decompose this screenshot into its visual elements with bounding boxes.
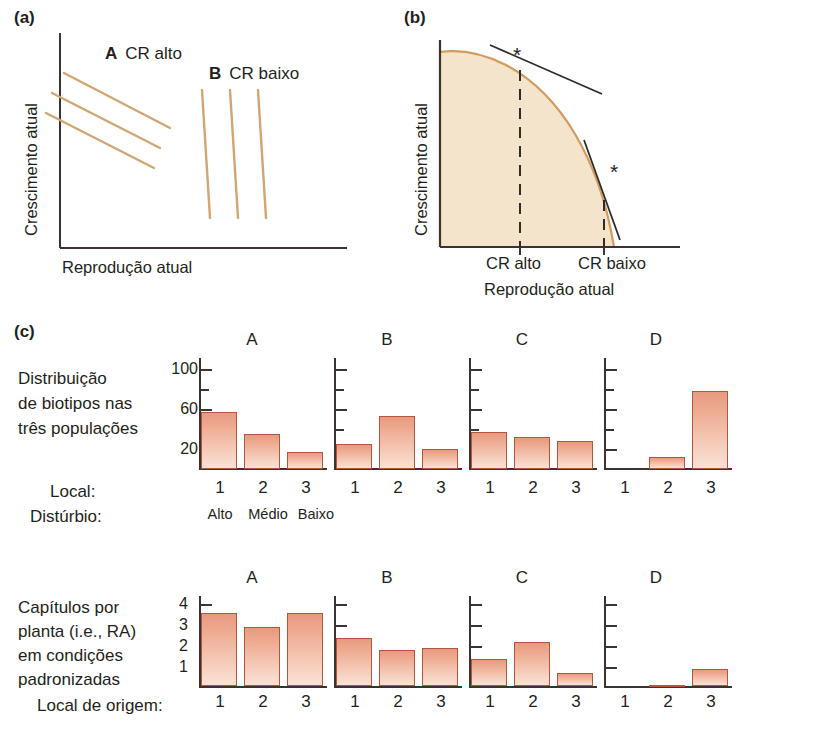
row2-chart-b-cat-3: 3 [431,692,451,712]
row2-chart-title-d: D [641,568,671,588]
panel-b-asterisk-1: * [513,48,521,62]
row2-chart-b-ytick-3 [336,625,347,627]
row2-ytick-4: 4 [166,595,188,613]
row1-chart-c-bar-3 [557,441,593,469]
row2-ytick-3: 3 [166,616,188,634]
row1-chart-b-cat-1: 1 [345,478,365,498]
row1-chart-d-ytick-40 [606,429,614,431]
row1-chart-a-ytick-100 [201,369,212,371]
panel-b-letter: (b) [404,8,426,28]
row1-chart-a-bar-3 [287,452,323,469]
row1-local-label: Local: [50,480,95,503]
row2-chart-d-cat-3: 3 [701,692,721,712]
row1-chart-a-bar-2 [244,434,280,469]
row2-chart-c [469,596,599,690]
row1-ytick-60: 60 [160,400,198,418]
row1-chart-c-ytick-80 [471,389,479,391]
panel-a-annotation-b: BCR baixo [209,64,299,84]
row1-chart-b-ytick-40 [336,429,344,431]
row2-chart-a-ytick-4 [201,604,212,606]
row2-chart-c-cat-2: 2 [523,692,543,712]
panel-a-ylabel: Crescimento atual [22,103,41,236]
row1-chart-c-ytick-60 [471,409,482,411]
row1-chart-a-cat-2: 2 [253,478,273,498]
row1-chart-a-bar-1 [201,412,237,469]
row2-chart-b-x-axis [334,686,462,688]
row1-chart-b-bar-3 [422,449,458,469]
row2-chart-d-ytick-2 [606,646,617,648]
row1-chart-d-ytick-100 [606,369,617,371]
row2-chart-c-cat-1: 1 [480,692,500,712]
panel-a-plot [42,28,362,253]
row1-chart-c-cat-2: 2 [523,478,543,498]
row1-chart-d-bar-2 [649,457,685,469]
row2-chart-c-ytick-3 [471,625,482,627]
row2-chart-c-ytick-2 [471,646,482,648]
row1-chart-d-ytick-60 [606,409,617,411]
row1-chart-c [469,358,599,472]
row1-chart-b-ytick-80 [336,389,344,391]
row1-chart-c-ytick-40 [471,429,479,431]
row2-side-label-line-1: Capítulos por [18,596,119,619]
row2-chart-a-cat-2: 2 [253,692,273,712]
row2-chart-d-ytick-3 [606,625,617,627]
row1-ytick-100: 100 [160,360,198,378]
row2-chart-c-ytick-4 [471,604,482,606]
row1-chart-c-bar-2 [514,437,550,469]
row1-chart-d [604,358,734,472]
row2-chart-c-cat-3: 3 [566,692,586,712]
panel-b-xtick-label-cr-baixo: CR baixo [578,254,646,273]
row1-chart-d-ytick-20 [606,449,617,451]
row2-ytick-2: 2 [166,637,188,655]
row1-chart-a-ytick-60 [201,409,212,411]
row1-chart-a-cat-3: 3 [296,478,316,498]
row2-chart-c-bar-1 [471,659,507,686]
panel-b-ylabel: Crescimento atual [412,103,431,236]
row2-chart-b-cat-1: 1 [345,692,365,712]
row1-chart-d-cat-3: 3 [701,478,721,498]
row2-chart-d-ytick-4 [606,604,617,606]
row2-chart-b-ytick-4 [336,604,347,606]
panel-b-xtick-label-cr-alto: CR alto [486,254,541,273]
row1-chart-a [199,358,329,472]
row1-chart-c-cat-3: 3 [566,478,586,498]
row2-chart-a-x-axis [199,686,327,688]
row1-disturbio-baixo: Baixo [286,506,346,522]
row2-side-label-line-4: padronizadas [18,668,120,691]
row1-chart-b-bar-2 [379,416,415,469]
row1-chart-c-ytick-100 [471,369,482,371]
panel-a-group-a-lines [46,73,170,168]
row1-chart-b-cat-2: 2 [388,478,408,498]
row1-chart-b-cat-3: 3 [431,478,451,498]
row2-side-label-line-2: planta (i.e., RA) [18,620,136,643]
row1-chart-title-b: B [372,330,402,350]
row1-chart-b [334,358,464,472]
row2-chart-c-bar-2 [514,642,550,686]
row2-chart-b-cat-2: 2 [388,692,408,712]
row2-chart-b-bar-1 [336,638,372,686]
panel-a-group-a-key: A [105,44,117,63]
panel-b-plot [432,22,692,262]
row1-chart-d-y-axis [604,358,606,470]
panel-a-letter: (a) [14,8,35,28]
row2-chart-a-cat-3: 3 [296,692,316,712]
row1-ytick-20: 20 [160,440,198,458]
row1-disturbio-label: Distúrbio: [30,505,102,528]
row2-chart-d-cat-2: 2 [658,692,678,712]
row2-chart-d-y-axis [604,596,606,688]
row1-chart-title-a: A [237,330,267,350]
panel-a-xlabel: Reprodução atual [62,258,192,277]
row1-chart-c-bar-1 [471,432,507,469]
row2-side-label-line-3: em condições [18,644,123,667]
row2-chart-c-x-axis [469,686,597,688]
row2-chart-d-ytick-1 [606,667,617,669]
row2-chart-d-cat-1: 1 [615,692,635,712]
row1-chart-d-cat-1: 1 [615,478,635,498]
row1-chart-d-bar-3 [692,391,728,469]
row2-chart-title-a: A [237,568,267,588]
panel-a-group-b-key: B [209,64,221,83]
row2-chart-title-b: B [372,568,402,588]
row1-side-label-line-1: Distribuição [18,367,107,390]
panel-b-asterisk-2: * [610,165,618,179]
row1-chart-a-cat-1: 1 [210,478,230,498]
